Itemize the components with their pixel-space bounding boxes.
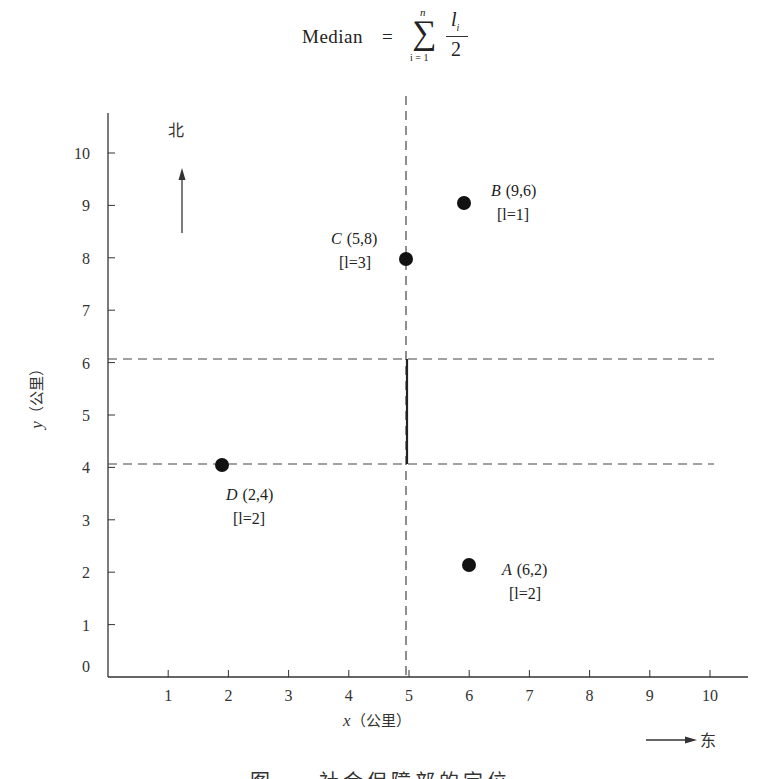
label-a: A(6,2) bbox=[501, 561, 547, 579]
east-label: 东 bbox=[700, 731, 716, 750]
x-tick-labels: 12345678910 bbox=[164, 687, 718, 704]
x-tick-label: 2 bbox=[224, 687, 232, 704]
point-labels: B(9,6) [l=1] C(5,8) [l=3] D(2,4) [l=2] A… bbox=[225, 182, 547, 602]
x-tick-label: 8 bbox=[586, 687, 594, 704]
weight-a: [l=2] bbox=[509, 585, 541, 602]
y-tick-label: 10 bbox=[74, 145, 90, 162]
point-d bbox=[215, 458, 229, 472]
y-axis-title: y（公里） bbox=[27, 361, 46, 431]
east-arrow-icon bbox=[685, 737, 697, 744]
scatter-chart: 12345678910 012345678910 B(9,6) [l=1] C(… bbox=[0, 0, 767, 779]
y-tick-label: 1 bbox=[82, 617, 90, 634]
y-tick-label: 5 bbox=[82, 407, 90, 424]
x-tick-label: 7 bbox=[525, 687, 533, 704]
point-b bbox=[457, 196, 471, 210]
weight-d: [l=2] bbox=[233, 510, 265, 527]
north-label: 北 bbox=[168, 121, 184, 140]
x-tick-label: 4 bbox=[345, 687, 353, 704]
y-tick-label: 3 bbox=[82, 512, 90, 529]
label-c: C(5,8) bbox=[331, 230, 377, 248]
x-tick-label: 10 bbox=[702, 687, 718, 704]
point-c bbox=[399, 252, 413, 266]
y-tick-label: 8 bbox=[82, 250, 90, 267]
x-tick-label: 9 bbox=[646, 687, 654, 704]
y-tick-label: 0 bbox=[82, 658, 90, 675]
y-tick-label: 2 bbox=[82, 564, 90, 581]
x-axis-title: x（公里） bbox=[342, 711, 411, 730]
point-a bbox=[462, 558, 476, 572]
x-tick-label: 5 bbox=[405, 687, 413, 704]
reference-lines bbox=[108, 96, 714, 677]
y-tick-label: 9 bbox=[82, 197, 90, 214]
label-d: D(2,4) bbox=[225, 486, 273, 504]
y-tick-label: 6 bbox=[82, 355, 90, 372]
x-ticks bbox=[168, 670, 710, 677]
x-tick-label: 6 bbox=[465, 687, 473, 704]
y-ticks bbox=[108, 153, 115, 625]
x-tick-label: 3 bbox=[285, 687, 293, 704]
y-tick-labels: 012345678910 bbox=[74, 145, 90, 675]
y-tick-label: 7 bbox=[82, 302, 90, 319]
weight-b: [l=1] bbox=[497, 206, 529, 223]
figure-caption: 图 — 社会保障部的定位 bbox=[250, 766, 511, 779]
axes bbox=[108, 113, 748, 677]
label-b: B(9,6) bbox=[491, 182, 536, 200]
y-tick-label: 4 bbox=[82, 459, 90, 476]
weight-c: [l=3] bbox=[339, 254, 371, 271]
east-indicator: 东 bbox=[646, 731, 716, 750]
north-indicator: 北 bbox=[168, 121, 186, 233]
x-tick-label: 1 bbox=[164, 687, 172, 704]
north-arrow-icon bbox=[179, 168, 186, 180]
